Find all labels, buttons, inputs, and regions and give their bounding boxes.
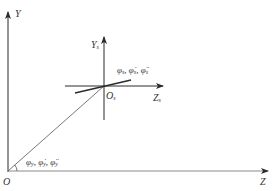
local-y-label: Ys	[91, 40, 99, 50]
local-z-label: Zs	[153, 93, 161, 103]
global-y-text: Y	[15, 8, 21, 19]
global-z-text: Z	[260, 176, 266, 187]
angle-arc	[15, 165, 17, 171]
global-y-label: Y	[15, 9, 21, 19]
local-rotation-label: φs, φ̇s, φ̈s	[117, 66, 148, 75]
local-origin-label: Os	[106, 91, 116, 101]
global-angle-label: φy, φ̇y, φ̈y	[26, 158, 58, 167]
phi-ddot-subscript: s	[146, 69, 148, 75]
local-y-subscript: s	[97, 44, 99, 50]
global-origin-label: O	[3, 177, 10, 187]
local-z-subscript: s	[159, 97, 161, 103]
local-origin-subscript: s	[113, 95, 115, 101]
phi-ddot-subscript: y	[55, 161, 58, 167]
global-origin-text: O	[3, 176, 10, 187]
global-z-label: Z	[260, 177, 266, 187]
